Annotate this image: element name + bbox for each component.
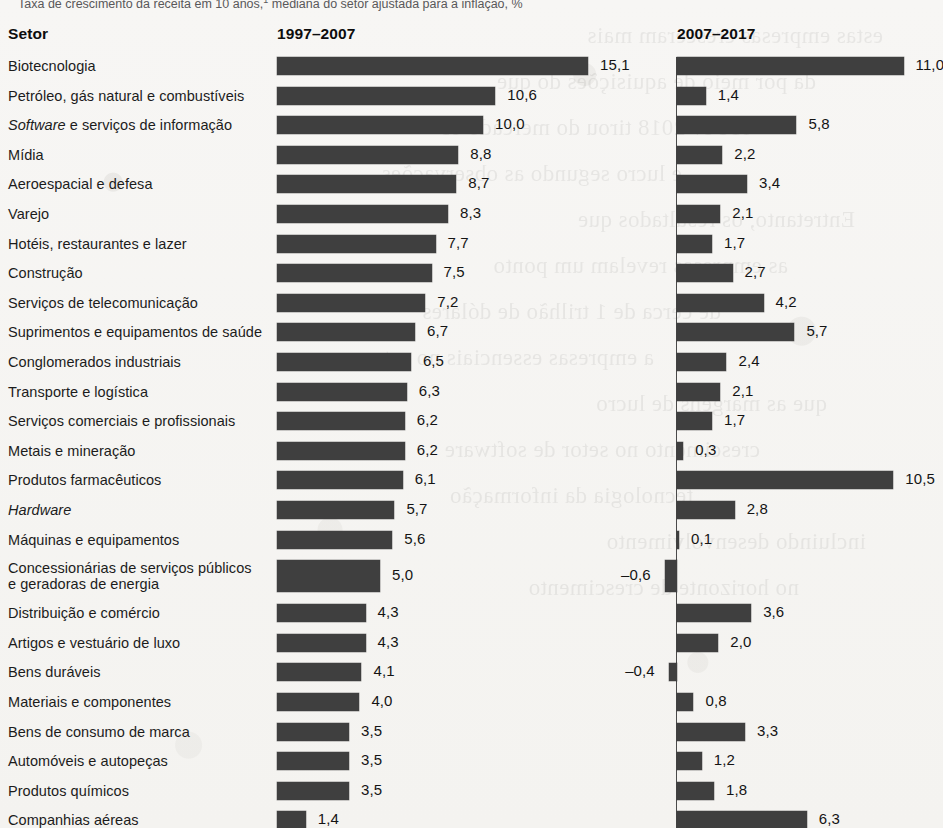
bar-1997-2007 [277,663,361,681]
bar-1997-2007 [277,752,349,770]
chart-row: Artigos e vestuário de luxo4,32,0 [0,634,943,652]
bar-2007-2017 [677,412,712,430]
caption-text: Taxa de crescimento da receita em 10 ano… [18,0,263,11]
chart-row: Software e serviços de informação10,05,8 [0,116,943,134]
bar-value-1997-2007: 7,2 [437,293,458,310]
bar-value-1997-2007: 3,5 [361,781,382,798]
bar-1997-2007 [277,782,349,800]
bar-1997-2007 [277,531,392,549]
row-label: Máquinas e equipamentos [8,532,179,548]
bar-2007-2017 [677,87,706,105]
bar-1997-2007 [277,323,415,341]
row-label: Materiais e componentes [8,694,171,710]
row-label: Metais e mineração [8,443,135,459]
bar-2007-2017 [677,175,747,193]
bar-value-2007-2017: 1,8 [726,781,747,798]
bar-value-1997-2007: 8,7 [468,174,489,191]
bar-1997-2007 [277,811,306,828]
bar-2007-2017 [677,752,702,770]
bar-value-2007-2017: 2,7 [745,263,766,280]
chart-row: Bens de consumo de marca3,53,3 [0,723,943,741]
bar-1997-2007 [277,294,425,312]
bar-value-1997-2007: 10,0 [495,115,525,132]
row-label: Serviços de telecomunicação [8,295,198,311]
row-label: Bens duráveis [8,664,101,680]
chart-row: Serviços de telecomunicação7,24,2 [0,294,943,312]
bar-2007-2017 [677,634,718,652]
bar-value-2007-2017: 1,7 [724,234,745,251]
row-label: Software e serviços de informação [8,117,232,133]
bar-2007-2017 [677,353,726,371]
row-label: Suprimentos e equipamentos de saúde [8,324,262,340]
chart-row: Companhias aéreas1,46,3 [0,811,943,828]
chart-row: Hardware5,72,8 [0,501,943,519]
row-label-italic-term: Software [8,117,66,133]
bar-value-1997-2007: 4,3 [378,633,399,650]
bar-1997-2007 [277,116,483,134]
chart-row: Produtos químicos3,51,8 [0,782,943,800]
chart-row: Hotéis, restaurantes e lazer7,71,7 [0,235,943,253]
bar-1997-2007 [277,604,366,622]
bar-value-2007-2017: 2,4 [738,352,759,369]
bar-value-2007-2017: 2,8 [747,500,768,517]
row-label: Hotéis, restaurantes e lazer [8,236,187,252]
bar-value-2007-2017: 10,5 [905,470,935,487]
chart-row: Materiais e componentes4,00,8 [0,693,943,711]
bar-2007-2017 [677,57,904,75]
bar-1997-2007 [277,412,405,430]
bar-2007-2017-negative [665,560,677,592]
chart-row: Concessionárias de serviços públicos e g… [0,560,943,592]
row-label-italic-term: Hardware [8,502,71,518]
row-label: Produtos químicos [8,783,129,799]
row-label: Concessionárias de serviços públicos e g… [8,560,252,592]
bar-value-2007-2017: 3,4 [759,174,780,191]
bar-value-2007-2017: 2,0 [730,633,751,650]
chart-row: Conglomerados industriais6,52,4 [0,353,943,371]
bar-value-2007-2017: 5,8 [808,115,829,132]
bar-2007-2017 [677,294,764,312]
chart-row: Suprimentos e equipamentos de saúde6,75,… [0,323,943,341]
bar-value-2007-2017: 1,4 [718,86,739,103]
bar-1997-2007 [277,353,411,371]
chart-row: Máquinas e equipamentos5,60,1 [0,531,943,549]
bar-2007-2017 [677,811,807,828]
bar-1997-2007 [277,175,456,193]
bar-1997-2007 [277,693,359,711]
chart-row: Produtos farmacêuticos6,110,5 [0,471,943,489]
bar-value-1997-2007: 3,5 [361,722,382,739]
bar-1997-2007 [277,442,405,460]
row-label: Hardware [8,502,71,518]
bar-2007-2017 [677,693,693,711]
bar-value-1997-2007: 6,2 [417,441,438,458]
bar-2007-2017-negative [669,663,677,681]
bar-1997-2007 [277,723,349,741]
bar-2007-2017 [677,235,712,253]
row-label: Distribuição e comércio [8,605,160,621]
bar-1997-2007 [277,560,380,592]
bar-value-1997-2007: 1,4 [318,810,339,827]
bar-2007-2017 [677,264,733,282]
chart-row: Construção7,52,7 [0,264,943,282]
bar-value-2007-2017: 4,2 [776,293,797,310]
row-label: Mídia [8,147,44,163]
bar-2007-2017 [677,383,720,401]
bar-value-2007-2017: 0,8 [705,692,726,709]
chart-row: Automóveis e autopeças3,51,2 [0,752,943,770]
bar-1997-2007 [277,383,407,401]
bar-1997-2007 [277,501,394,519]
chart-row: Mídia8,82,2 [0,146,943,164]
bar-2007-2017 [677,116,796,134]
bar-value-2007-2017: –0,4 [603,662,655,679]
row-label: Produtos farmacêuticos [8,472,161,488]
bar-1997-2007 [277,264,432,282]
bar-value-1997-2007: 15,1 [600,56,630,73]
bar-value-2007-2017: 6,3 [819,810,840,827]
bar-value-1997-2007: 7,5 [444,263,465,280]
bar-value-2007-2017: 5,7 [806,322,827,339]
bar-value-1997-2007: 8,8 [470,145,491,162]
bar-1997-2007 [277,87,495,105]
bar-2007-2017 [677,146,722,164]
bar-value-1997-2007: 6,1 [415,470,436,487]
bar-value-1997-2007: 4,1 [373,662,394,679]
row-label: Biotecnologia [8,58,96,74]
